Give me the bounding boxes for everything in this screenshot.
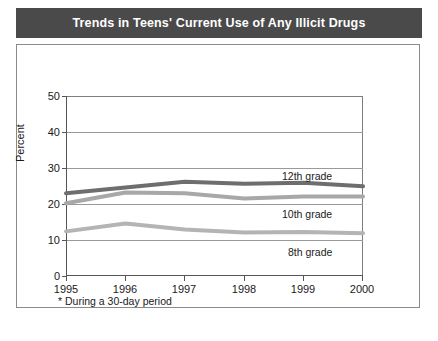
x-tick-1996: 1996 xyxy=(113,283,137,295)
page-title: Trends in Teens' Current Use of Any Illi… xyxy=(72,16,365,30)
y-tick-10: 10 xyxy=(48,234,60,246)
x-tick-mark-1999 xyxy=(303,276,304,281)
x-tick-1997: 1997 xyxy=(172,283,196,295)
line-12th-grade xyxy=(66,182,363,194)
footnote: * During a 30-day period xyxy=(58,295,172,307)
x-tick-mark-1997 xyxy=(184,276,185,281)
series-label-12th-grade: 12th grade xyxy=(282,170,332,182)
y-tick-20: 20 xyxy=(48,198,60,210)
x-tick-mark-1998 xyxy=(244,276,245,281)
y-tick-40: 40 xyxy=(48,126,60,138)
x-tick-1999: 1999 xyxy=(291,283,315,295)
x-tick-mark-1995 xyxy=(66,276,67,281)
y-tick-labels: 0 10 20 30 40 50 xyxy=(36,96,60,276)
x-tick-mark-1996 xyxy=(125,276,126,281)
line-10th-grade xyxy=(66,192,363,203)
y-tick-0: 0 xyxy=(54,270,60,282)
x-tick-2000: 2000 xyxy=(350,283,374,295)
x-tick-1998: 1998 xyxy=(232,283,256,295)
chart-figure: Trends in Teens' Current Use of Any Illi… xyxy=(0,0,438,341)
x-tick-1995: 1995 xyxy=(54,283,78,295)
y-axis-label: Percent xyxy=(14,124,26,162)
series-label-10th-grade: 10th grade xyxy=(282,208,332,220)
chart-title-bar: Trends in Teens' Current Use of Any Illi… xyxy=(16,8,422,38)
y-tick-30: 30 xyxy=(48,162,60,174)
y-tick-50: 50 xyxy=(48,90,60,102)
line-8th-grade xyxy=(66,223,363,233)
series-label-8th-grade: 8th grade xyxy=(288,246,332,258)
x-tick-mark-2000 xyxy=(362,276,363,281)
